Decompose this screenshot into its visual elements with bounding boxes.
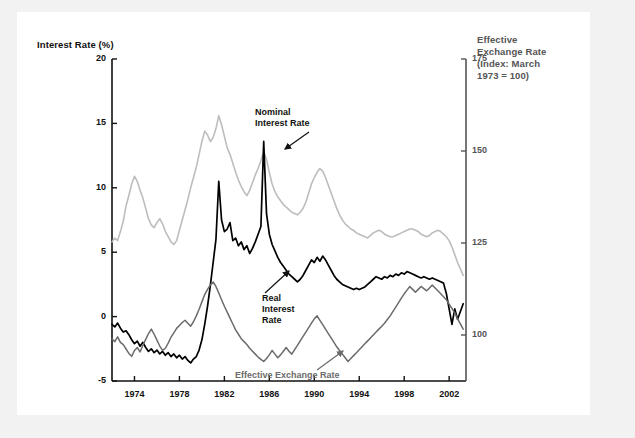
ytick-label-right: 175 <box>472 53 487 63</box>
xtick-label: 1982 <box>206 389 242 399</box>
ytick-label-left: -5 <box>70 375 106 385</box>
series-line-nominal-interest-rate <box>112 116 463 276</box>
annotation-real-interest-rate: Real Interest Rate <box>262 293 295 326</box>
xtick-label: 1986 <box>251 389 287 399</box>
ytick-label-right: 125 <box>472 237 487 247</box>
xtick-label: 1990 <box>296 389 332 399</box>
xtick-label: 1998 <box>386 389 422 399</box>
series-line-real-interest-rate <box>112 141 463 363</box>
annotation-effective-exchange-rate: Effective Exchange Rate <box>235 370 340 381</box>
xtick-label: 1978 <box>161 389 197 399</box>
annotation-nominal-interest-rate: Nominal Interest Rate <box>255 107 310 129</box>
xtick-label: 1994 <box>341 389 377 399</box>
ytick-label-left: 20 <box>70 53 106 63</box>
chart-plot <box>17 12 590 415</box>
xtick-label: 2002 <box>431 389 467 399</box>
xtick-label: 1974 <box>116 389 152 399</box>
ytick-label-right: 150 <box>472 145 487 155</box>
ytick-label-right: 100 <box>472 329 487 339</box>
ytick-label-left: 15 <box>70 117 106 127</box>
ytick-label-left: 0 <box>70 311 106 321</box>
ytick-label-left: 5 <box>70 246 106 256</box>
arrow-real-interest-rate <box>265 271 289 293</box>
figure-panel: Interest Rate (%) Effective Exchange Rat… <box>17 12 590 415</box>
ytick-label-left: 10 <box>70 182 106 192</box>
arrow-nominal-interest-rate <box>285 132 309 149</box>
arrow-effective-exchange-rate <box>317 351 343 370</box>
